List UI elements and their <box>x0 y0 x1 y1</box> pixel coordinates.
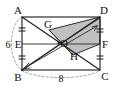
label-o: O <box>60 37 68 49</box>
label-length-bc: 8 <box>59 73 64 84</box>
label-c: C <box>101 70 108 82</box>
label-length-ab: 6 <box>6 39 11 50</box>
label-b: B <box>14 71 21 83</box>
label-f: F <box>102 38 108 50</box>
label-g: G <box>44 18 52 30</box>
label-h: H <box>70 50 78 62</box>
label-e: E <box>15 38 22 50</box>
label-d: D <box>100 4 108 16</box>
geometry-figure: A D B C E F G H O 6 8 <box>0 0 117 87</box>
label-a: A <box>14 4 22 16</box>
geometry-canvas: A D B C E F G H O 6 8 <box>0 0 117 87</box>
